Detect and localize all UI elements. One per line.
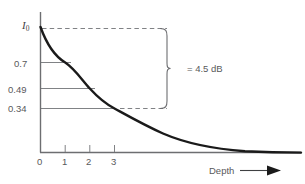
exponential-decay-curve — [41, 27, 302, 153]
x-axis-ticks — [65, 145, 114, 152]
plot-canvas — [0, 0, 305, 184]
arrow-right-icon — [240, 166, 281, 176]
x-tick-label-0: 0 — [37, 157, 42, 167]
y-tick-label-0.7: 0.7 — [14, 59, 27, 69]
x-tick-label-1: 1 — [62, 157, 67, 167]
x-tick-label-3: 3 — [111, 157, 116, 167]
curly-brace-icon — [160, 29, 171, 109]
intensity-depth-figure: I0 0.7 0.49 0.34 0 1 2 3 = 4.5 dB Depth — [0, 0, 305, 184]
db-annotation-label: = 4.5 dB — [187, 64, 223, 74]
y-axis-label-i0-subscript: 0 — [26, 24, 30, 33]
axes-lines — [40, 12, 301, 153]
x-axis-title: Depth — [209, 166, 234, 176]
y-axis-label-i0: I0 — [22, 20, 29, 31]
dashed-reference-lines — [42, 29, 167, 109]
y-tick-label-0.49: 0.49 — [8, 85, 27, 95]
y-tick-label-0.34: 0.34 — [8, 104, 27, 114]
x-tick-label-2: 2 — [86, 157, 91, 167]
